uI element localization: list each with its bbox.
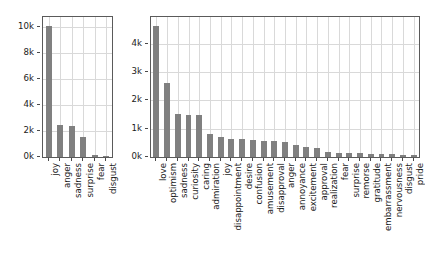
x-tick-label: amusement — [266, 163, 275, 214]
x-tick-mark — [230, 158, 231, 161]
bar — [325, 152, 331, 157]
bar — [389, 154, 395, 157]
x-tick-mark — [82, 158, 83, 161]
y-tick-label: 4k — [132, 39, 142, 48]
x-tick-mark — [59, 158, 60, 161]
bar — [46, 26, 52, 157]
x-tick-mark — [359, 158, 360, 161]
x-tick-label: realization — [330, 163, 339, 208]
x-tick-mark — [263, 158, 264, 161]
y-tick-label: 0k — [132, 152, 142, 161]
x-tick-mark — [338, 158, 339, 161]
y-tick-mark — [145, 156, 148, 157]
x-tick-label: surprise — [86, 163, 95, 198]
x-tick-mark — [316, 158, 317, 161]
x-tick-mark — [295, 158, 296, 161]
chart-panel-ekman: 0k2k4k6k8k10k joyangersadnesssurprisefea… — [0, 0, 140, 264]
x-tick-label: pride — [416, 163, 425, 185]
x-tick-label: approval — [320, 163, 329, 201]
y-tick-label: 10k — [18, 22, 34, 31]
x-tick-mark — [370, 158, 371, 161]
x-tickmarks-ekman — [42, 158, 113, 162]
x-tickmarks-goemotions — [150, 158, 420, 162]
plot-area-goemotions — [150, 16, 420, 158]
x-tick-mark — [327, 158, 328, 161]
x-tick-mark — [188, 158, 189, 161]
bar — [175, 114, 181, 157]
x-tick-mark — [305, 158, 306, 161]
bar — [293, 145, 299, 157]
x-tick-mark — [177, 158, 178, 161]
x-tick-mark — [198, 158, 199, 161]
bar — [346, 153, 352, 157]
x-tick-mark — [71, 158, 72, 161]
bar — [282, 142, 288, 157]
bar — [228, 139, 234, 157]
x-tick-label: sadness — [180, 163, 189, 198]
x-tick-label: caring — [202, 163, 211, 190]
x-tick-mark — [391, 158, 392, 161]
y-tick-label: 8k — [24, 48, 34, 57]
bar — [261, 141, 267, 157]
x-axis-labels-goemotions: loveoptimismsadnesscuriositycaringadmira… — [150, 163, 420, 261]
y-tick-mark — [37, 130, 40, 131]
bar — [218, 137, 224, 157]
bar-series-ekman — [43, 17, 112, 157]
bar — [379, 154, 385, 157]
x-tick-mark — [252, 158, 253, 161]
x-tick-label: embarrassment — [384, 163, 393, 231]
x-tick-label: fear — [341, 163, 350, 180]
bar — [368, 154, 374, 157]
y-tick-mark — [37, 78, 40, 79]
bar-series-goemotions — [151, 17, 419, 157]
y-tick-mark — [37, 26, 40, 27]
x-tick-mark — [380, 158, 381, 161]
bar — [303, 147, 309, 157]
bar — [271, 141, 277, 157]
bar — [164, 83, 170, 157]
bar — [153, 26, 159, 157]
y-tick-mark — [145, 99, 148, 100]
bar — [314, 148, 320, 157]
bar — [103, 156, 109, 157]
x-tick-label: optimism — [169, 163, 178, 203]
y-tick-mark — [145, 43, 148, 44]
bar — [196, 115, 202, 157]
x-tick-label: anger — [63, 163, 72, 188]
bar — [186, 115, 192, 157]
x-axis-labels-ekman: joyangersadnesssurprisefeardisgust — [42, 163, 113, 223]
x-tick-mark — [284, 158, 285, 161]
chart-panel-goemotions: 0k1k2k3k4k loveoptimismsadnesscuriosityc… — [120, 0, 423, 264]
bar — [69, 126, 75, 157]
x-tick-mark — [348, 158, 349, 161]
x-tick-label: excitement — [309, 163, 318, 211]
x-tick-label: disgust — [109, 163, 118, 194]
x-tick-label: anger — [287, 163, 296, 188]
x-tick-mark — [220, 158, 221, 161]
y-axis-goemotions: 0k1k2k3k4k — [120, 16, 148, 158]
x-tick-label: nervousness — [395, 163, 404, 217]
x-tick-mark — [241, 158, 242, 161]
x-tick-label: surprise — [352, 163, 361, 198]
y-tick-label: 1k — [132, 123, 142, 132]
y-tick-mark — [145, 128, 148, 129]
x-tick-label: disapproval — [277, 163, 286, 213]
y-tick-mark — [37, 156, 40, 157]
x-tick-label: admiration — [212, 163, 221, 210]
x-tick-mark — [155, 158, 156, 161]
x-tick-mark — [209, 158, 210, 161]
x-tick-mark — [94, 158, 95, 161]
x-tick-label: joy — [51, 163, 60, 176]
bar — [400, 155, 406, 157]
y-tick-label: 2k — [132, 95, 142, 104]
x-tick-mark — [105, 158, 106, 161]
x-tick-mark — [413, 158, 414, 161]
y-tick-label: 0k — [24, 152, 34, 161]
x-tick-label: sadness — [74, 163, 83, 198]
x-tick-label: fear — [97, 163, 106, 180]
bar — [411, 155, 417, 157]
x-tick-label: disgust — [405, 163, 414, 194]
bar — [80, 137, 86, 157]
x-tick-label: confusion — [255, 163, 264, 204]
